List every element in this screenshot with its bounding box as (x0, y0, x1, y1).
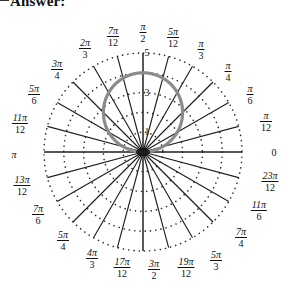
angle-label-theta-5pi-12: 5π12 (167, 27, 179, 49)
fraction-numerator: 7π (107, 26, 119, 36)
fraction-denominator: 2 (148, 269, 160, 281)
angle-label-text: 0 (272, 147, 277, 158)
fraction-numerator: 7π (235, 227, 247, 237)
fraction-denominator: 12 (167, 37, 179, 49)
angle-label-fraction: π3 (197, 39, 204, 61)
fraction-numerator: π (260, 111, 272, 121)
fraction-denominator: 12 (177, 267, 194, 279)
angle-label-fraction: π6 (246, 84, 253, 106)
angle-label-theta-11pi-12: 11π12 (12, 113, 28, 135)
angle-label-theta-17pi-12: 17π12 (113, 257, 130, 279)
fraction-numerator: π (224, 61, 231, 71)
radial-tick-label-3: 3 (145, 88, 150, 98)
angle-label-fraction: π2 (139, 22, 146, 44)
fraction-denominator: 6 (246, 94, 253, 106)
fraction-numerator: 7π (32, 204, 44, 214)
fraction-denominator: 12 (107, 36, 119, 48)
grid-spoke-23 (143, 152, 239, 178)
fraction-denominator: 4 (224, 71, 231, 83)
fraction-numerator: 5π (167, 27, 179, 37)
fraction-denominator: 12 (12, 123, 28, 135)
angle-label-fraction: 13π12 (13, 175, 30, 197)
angle-label-theta-pi-12: π12 (260, 111, 272, 133)
fraction-denominator: 6 (28, 94, 40, 106)
angle-label-theta-7pi-12: 7π12 (107, 26, 119, 48)
grid-spoke-17 (117, 152, 143, 248)
fraction-numerator: 3π (51, 59, 63, 69)
angle-label-fraction: 19π12 (177, 257, 194, 279)
angle-label-fraction: 3π2 (148, 259, 160, 281)
fraction-numerator: 2π (79, 38, 91, 48)
angle-label-fraction: 4π3 (86, 248, 98, 270)
angle-label-text: π (11, 149, 16, 160)
angle-label-theta-7pi-6: 7π6 (32, 204, 44, 226)
fraction-numerator: 19π (177, 257, 194, 267)
fraction-numerator: 11π (12, 113, 28, 123)
angle-label-theta-3pi-2: 3π2 (148, 259, 160, 281)
fraction-denominator: 2 (139, 32, 146, 44)
fraction-denominator: 6 (32, 214, 44, 226)
grid-spoke-7 (117, 56, 143, 152)
angle-label-theta-4pi-3: 4π3 (86, 248, 98, 270)
angle-label-theta-pi: π (11, 149, 16, 160)
angle-label-fraction: π12 (260, 111, 272, 133)
fraction-numerator: 17π (113, 257, 130, 267)
angle-label-theta-19pi-12: 19π12 (177, 257, 194, 279)
angle-label-theta-5pi-6: 5π6 (28, 84, 40, 106)
angle-label-fraction: 5π3 (210, 250, 222, 272)
fraction-denominator: 4 (57, 240, 69, 252)
angle-label-fraction: 7π4 (235, 227, 247, 249)
fraction-denominator: 4 (235, 237, 247, 249)
angle-label-theta-2pi-3: 2π3 (79, 38, 91, 60)
fraction-numerator: 23π (261, 171, 278, 181)
angle-label-theta-pi-4: π4 (224, 61, 231, 83)
angle-label-fraction: 2π3 (79, 38, 91, 60)
angle-label-theta-3pi-4: 3π4 (51, 59, 63, 81)
angle-label-fraction: π4 (224, 61, 231, 83)
fraction-denominator: 12 (13, 185, 30, 197)
angle-label-fraction: 17π12 (113, 257, 130, 279)
angle-label-theta-11pi-6: 11π6 (251, 200, 267, 222)
angle-label-theta-5pi-4: 5π4 (57, 230, 69, 252)
angle-label-fraction: 7π12 (107, 26, 119, 48)
fraction-numerator: 4π (86, 248, 98, 258)
angle-label-fraction: 11π12 (12, 113, 28, 135)
angle-label-theta-0: 0 (272, 147, 277, 158)
angle-label-theta-23pi-12: 23π12 (261, 171, 278, 193)
fraction-denominator: 3 (86, 258, 98, 270)
grid-spoke-5 (143, 56, 169, 152)
fraction-numerator: π (197, 39, 204, 49)
fraction-denominator: 3 (210, 260, 222, 272)
angle-label-fraction: 5π12 (167, 27, 179, 49)
angle-label-fraction: 7π6 (32, 204, 44, 226)
angle-label-fraction: 3π4 (51, 59, 63, 81)
fraction-numerator: 13π (13, 175, 30, 185)
fraction-numerator: π (139, 22, 146, 32)
fraction-numerator: 11π (251, 200, 267, 210)
angle-label-theta-pi-2: π2 (139, 22, 146, 44)
angle-label-theta-13pi-12: 13π12 (13, 175, 30, 197)
radial-tick-label-1: 1 (145, 127, 150, 137)
fraction-numerator: 3π (148, 259, 160, 269)
angle-label-theta-pi-6: π6 (246, 84, 253, 106)
angle-label-fraction: 23π12 (261, 171, 278, 193)
fraction-denominator: 12 (260, 121, 272, 133)
figure-page: Answer: 0π12π6π4π35π12π27π122π33π45π611π… (0, 0, 291, 288)
angle-label-theta-7pi-4: 7π4 (235, 227, 247, 249)
fraction-denominator: 12 (113, 267, 130, 279)
fraction-numerator: 5π (57, 230, 69, 240)
angle-label-theta-5pi-3: 5π3 (210, 250, 222, 272)
pole-marker (136, 148, 150, 156)
fraction-denominator: 3 (197, 49, 204, 61)
fraction-numerator: π (246, 84, 253, 94)
angle-label-fraction: 11π6 (251, 200, 267, 222)
fraction-numerator: 5π (210, 250, 222, 260)
fraction-denominator: 6 (251, 210, 267, 222)
fraction-denominator: 3 (79, 48, 91, 60)
fraction-denominator: 12 (261, 181, 278, 193)
fraction-denominator: 4 (51, 69, 63, 81)
fraction-numerator: 5π (28, 84, 40, 94)
angle-label-theta-pi-3: π3 (197, 39, 204, 61)
angle-label-fraction: 5π6 (28, 84, 40, 106)
radial-tick-label-5: 5 (145, 48, 150, 58)
